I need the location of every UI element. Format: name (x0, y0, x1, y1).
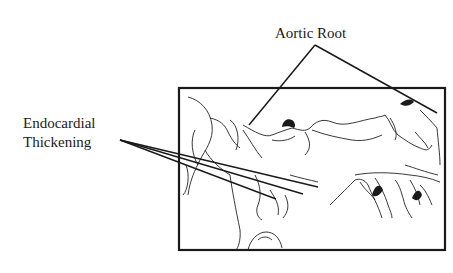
heart-illustration (183, 97, 440, 250)
endocardial-thickening-leaders (120, 140, 318, 199)
valve-leaflets (282, 100, 422, 201)
aortic-root-label: Aortic Root (275, 24, 346, 43)
endocardial-label-line1: Endocardial (23, 114, 95, 133)
endocardial-thickening-label: Endocardial Thickening (23, 114, 95, 152)
endocardial-label-line2: Thickening (23, 133, 95, 152)
aortic-root-leaders (249, 45, 437, 125)
